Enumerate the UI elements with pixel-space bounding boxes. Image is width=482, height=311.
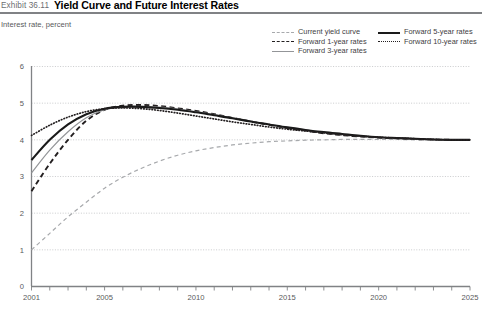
x-axis-tick-labels: 200120052010201520202025 [23,293,478,302]
x-axis-tick-label: 2001 [23,293,40,302]
y-axis-tick-label: 6 [20,62,24,71]
series-line [32,139,471,249]
y-axis-tick-label: 3 [20,172,24,181]
chart-svg: 0123456 200120052010201520202025 [0,0,482,311]
y-axis-tick-label: 4 [20,136,24,145]
y-axis-tick-labels: 0123456 [20,62,24,291]
x-axis-tick-label: 2025 [462,293,479,302]
x-axis-tick-label: 2015 [279,293,296,302]
chart-plot-area: 0123456 200120052010201520202025 [0,0,482,311]
gridlines [32,67,471,250]
y-axis-tick-label: 2 [20,209,24,218]
y-axis-tick-label: 1 [20,246,24,255]
x-axis-tick-label: 2020 [370,293,387,302]
data-series [32,105,471,250]
y-axis-tick-label: 5 [20,99,24,108]
y-axis-tick-label: 0 [20,282,24,291]
x-axis-tick-label: 2010 [187,293,204,302]
x-axis-tick-label: 2005 [96,293,113,302]
series-line [32,107,471,160]
series-line [32,105,471,191]
